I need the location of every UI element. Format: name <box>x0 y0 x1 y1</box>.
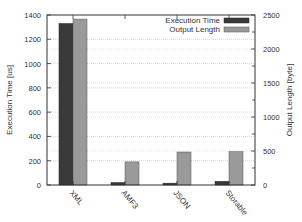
legend-swatch-output-length <box>224 27 249 32</box>
x-tick-label: Storable <box>223 189 249 218</box>
x-tick-label: XML <box>67 189 85 208</box>
x-tick-label: AMF3 <box>119 189 140 212</box>
legend-label-execution-time: Execution Time <box>165 16 220 25</box>
y-axis-right-label: Output Length [byte] <box>285 64 294 137</box>
bar-output-length <box>177 152 191 185</box>
y-tick-right: 2500 <box>263 11 280 20</box>
y-tick-left: 800 <box>28 84 41 93</box>
bar-execution-time <box>59 24 73 186</box>
y-tick-left: 1400 <box>24 11 41 20</box>
x-axis: XMLAMF3JSONStorable <box>67 15 249 218</box>
bar-execution-time <box>215 181 229 185</box>
y-tick-left: 200 <box>28 157 41 166</box>
bar-output-length <box>125 162 139 185</box>
y-tick-left: 0 <box>37 181 41 190</box>
y-axis-left-label: Execution Time [us] <box>5 65 14 135</box>
legend-swatch-execution-time <box>224 18 249 23</box>
y-tick-right: 500 <box>263 147 276 156</box>
legend-label-output-length: Output Length <box>169 25 220 34</box>
bar-output-length <box>229 152 243 185</box>
y-tick-left: 400 <box>28 132 41 141</box>
y-tick-left: 1200 <box>24 35 41 44</box>
bars <box>59 19 243 185</box>
y-tick-right: 2000 <box>263 45 280 54</box>
bar-chart: 0200400600800100012001400 05001000150020… <box>0 0 302 222</box>
y-tick-right: 0 <box>263 181 267 190</box>
y-tick-right: 1000 <box>263 113 280 122</box>
y-tick-left: 1000 <box>24 60 41 69</box>
x-tick-label: JSON <box>171 189 192 211</box>
y-tick-left: 600 <box>28 108 41 117</box>
bar-output-length <box>73 19 87 185</box>
y-tick-right: 1500 <box>263 79 280 88</box>
legend: Execution Time Output Length <box>165 16 249 34</box>
